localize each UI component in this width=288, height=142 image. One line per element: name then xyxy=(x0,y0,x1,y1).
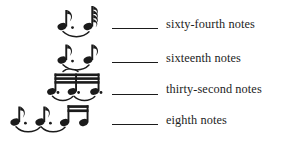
row-label-sixty-fourth: sixty-fourth notes xyxy=(166,17,255,31)
leader-rule xyxy=(112,28,158,29)
notation-group-thirty-second xyxy=(0,69,110,103)
row-label-eighth: eighth notes xyxy=(166,113,227,127)
notation-row: eighth notes xyxy=(0,100,288,133)
row-label-sixteenth: sixteenth notes xyxy=(166,51,241,65)
leader-rule xyxy=(112,94,158,95)
notation-group-sixty-fourth xyxy=(0,4,110,38)
notation-row: sixty-fourth notes xyxy=(0,4,288,37)
row-label-thirty-second: thirty-second notes xyxy=(166,82,262,96)
notation-group-eighth xyxy=(0,100,110,134)
leader-rule xyxy=(112,124,158,125)
leader-rule xyxy=(112,62,158,63)
notation-group-sixteenth xyxy=(0,38,110,72)
notation-row: sixteenth notes xyxy=(0,38,288,71)
notation-row: thirty-second notes xyxy=(0,69,288,102)
music-notation-chart: sixty-fourth notes xyxy=(0,0,288,142)
